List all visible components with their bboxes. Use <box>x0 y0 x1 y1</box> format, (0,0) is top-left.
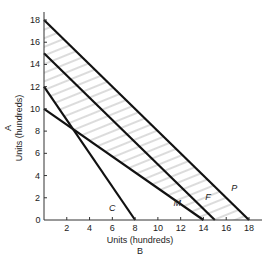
line-label-c: C <box>109 203 116 213</box>
y-axis-subtitle: A <box>3 125 13 131</box>
x-tick-label: 16 <box>221 223 231 233</box>
line-label-f: F <box>205 192 211 202</box>
y-tick-label: 6 <box>35 148 40 158</box>
production-possibilities-chart: 2468101214161824681012141618 PFMC 0 Unit… <box>0 0 271 262</box>
y-tick-label: 2 <box>35 193 40 203</box>
x-axis-title: Units (hundreds) <box>107 235 174 245</box>
y-tick-label: 18 <box>30 15 40 25</box>
y-axis-title: Units (hundreds) <box>14 95 24 162</box>
line-f <box>44 53 215 220</box>
x-tick-label: 2 <box>64 223 69 233</box>
x-tick-label: 10 <box>153 223 163 233</box>
y-tick-label: 12 <box>30 82 40 92</box>
y-tick-label: 14 <box>30 59 40 69</box>
y-tick-label: 16 <box>30 37 40 47</box>
y-tick-label: 8 <box>35 126 40 136</box>
origin-label: 0 <box>35 215 40 225</box>
x-tick-label: 12 <box>176 223 186 233</box>
x-tick-label: 18 <box>244 223 254 233</box>
x-tick-label: 6 <box>110 223 115 233</box>
x-axis-subtitle: B <box>137 246 143 256</box>
y-tick-label: 4 <box>35 171 40 181</box>
x-tick-label: 14 <box>198 223 208 233</box>
x-tick-label: 8 <box>133 223 138 233</box>
line-label-m: M <box>174 198 182 208</box>
line-label-p: P <box>231 183 237 193</box>
y-tick-label: 10 <box>30 104 40 114</box>
x-tick-label: 4 <box>87 223 92 233</box>
